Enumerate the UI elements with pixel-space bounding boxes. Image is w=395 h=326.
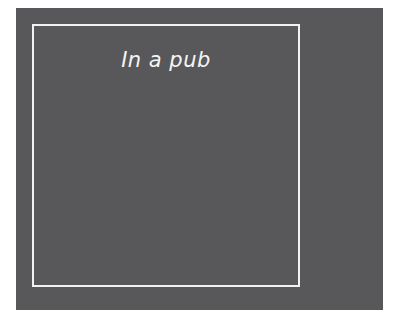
panel-frame: In a pub [32, 24, 300, 287]
illustration-panel: In a pub [16, 8, 383, 310]
panel-caption: In a pub [34, 48, 298, 72]
